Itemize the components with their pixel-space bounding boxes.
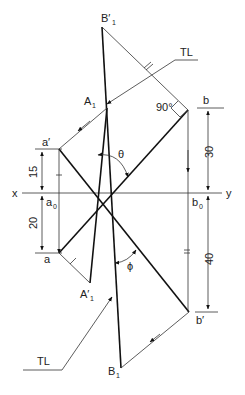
label-A1-prime: A′ 1 xyxy=(80,288,94,302)
svg-text:1: 1 xyxy=(90,295,94,302)
svg-text:0: 0 xyxy=(199,203,203,210)
svg-text:1: 1 xyxy=(112,19,116,26)
svg-text:b: b xyxy=(192,196,198,208)
dimension-a-prime-15: 15 xyxy=(27,149,62,190)
svg-text:a: a xyxy=(46,196,53,208)
label-B1-prime: B′ 1 xyxy=(101,12,116,26)
tl-leader-top: TL xyxy=(107,46,198,104)
svg-text:20: 20 xyxy=(27,217,39,229)
svg-text:1: 1 xyxy=(92,102,96,109)
svg-text:y: y xyxy=(226,187,232,199)
svg-text:ϕ: ϕ xyxy=(127,260,133,272)
label-a-prime: a′ xyxy=(42,136,50,148)
svg-text:TL: TL xyxy=(37,355,50,367)
true-length-line-top-view xyxy=(102,27,121,368)
label-b-prime: b′ xyxy=(196,314,204,326)
svg-text:A: A xyxy=(84,95,92,107)
svg-text:40: 40 xyxy=(203,253,215,265)
svg-text:x: x xyxy=(12,187,18,199)
label-a0: a 0 xyxy=(46,196,57,210)
label-b: b xyxy=(203,94,209,106)
phi-angle-arc: ϕ xyxy=(115,250,136,272)
dimension-b-30: 30 xyxy=(197,108,224,190)
projection-diagram: TL TL θ ϕ 15 20 30 40 B′ 1 A 1 xyxy=(0,0,245,395)
construction-lines xyxy=(56,27,190,368)
dimension-b-prime-40: 40 xyxy=(195,196,218,312)
svg-text:b: b xyxy=(203,94,209,106)
svg-text:0: 0 xyxy=(53,203,57,210)
label-a: a xyxy=(44,253,51,265)
label-b0: b 0 xyxy=(192,196,203,210)
svg-text:θ: θ xyxy=(118,148,124,160)
svg-text:a′: a′ xyxy=(42,136,50,148)
svg-text:1: 1 xyxy=(116,372,120,379)
label-right-angle: 90° xyxy=(156,101,173,113)
svg-text:15: 15 xyxy=(27,166,39,178)
svg-text:a: a xyxy=(44,253,51,265)
true-length-line-front-view xyxy=(90,108,107,283)
svg-text:TL: TL xyxy=(180,46,193,58)
tl-leader-bottom: TL xyxy=(23,297,112,370)
label-y: y xyxy=(226,187,232,199)
label-A1: A 1 xyxy=(84,95,96,109)
svg-text:A′: A′ xyxy=(80,288,89,300)
line-a-to-b xyxy=(59,110,188,253)
label-x: x xyxy=(12,187,18,199)
label-B1: B 1 xyxy=(108,365,120,379)
svg-text:B: B xyxy=(108,365,115,377)
svg-text:B′: B′ xyxy=(101,12,110,24)
svg-text:b′: b′ xyxy=(196,314,204,326)
svg-text:90°: 90° xyxy=(156,101,173,113)
svg-text:30: 30 xyxy=(203,146,215,158)
